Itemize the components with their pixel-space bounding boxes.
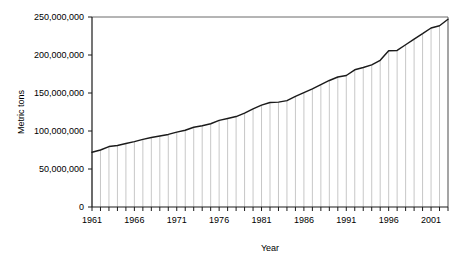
- x-tick-label: 1986: [294, 215, 314, 225]
- y-tick-label: 150,000,000: [34, 88, 84, 98]
- x-tick-label: 1966: [124, 215, 144, 225]
- chart-figure: 050,000,000100,000,000150,000,000200,000…: [0, 0, 462, 259]
- y-tick-label: 0: [79, 202, 84, 212]
- x-tick-label-group: 196119661971197619811986199119962001: [82, 215, 441, 225]
- x-tick-label: 1981: [252, 215, 272, 225]
- x-tick-label: 1976: [209, 215, 229, 225]
- x-axis-title: Year: [261, 243, 279, 253]
- x-tick-label: 1991: [336, 215, 356, 225]
- y-tick-label: 250,000,000: [34, 12, 84, 22]
- x-tick-label: 1996: [379, 215, 399, 225]
- y-tick-label: 50,000,000: [39, 164, 84, 174]
- x-tick-label: 2001: [421, 215, 441, 225]
- y-tick-label: 200,000,000: [34, 50, 84, 60]
- x-tick-label: 1971: [167, 215, 187, 225]
- y-tick-label-group: 050,000,000100,000,000150,000,000200,000…: [34, 12, 84, 212]
- x-tick-label: 1961: [82, 215, 102, 225]
- y-axis-title: Metric tons: [16, 89, 26, 134]
- chart-canvas: 050,000,000100,000,000150,000,000200,000…: [0, 0, 462, 259]
- x-tick-group: [92, 207, 448, 211]
- y-tick-label: 100,000,000: [34, 126, 84, 136]
